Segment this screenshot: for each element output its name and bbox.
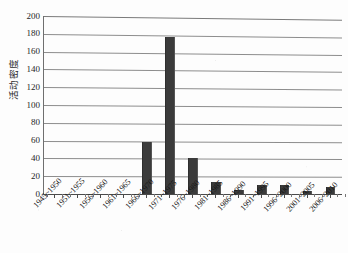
bar-chart-figure: 活动密度 200180160140120100806040200 1945~19… [0,0,348,253]
x-axis-tick-labels: 1945~19501951~19551956~19601961~19651966… [0,0,348,253]
